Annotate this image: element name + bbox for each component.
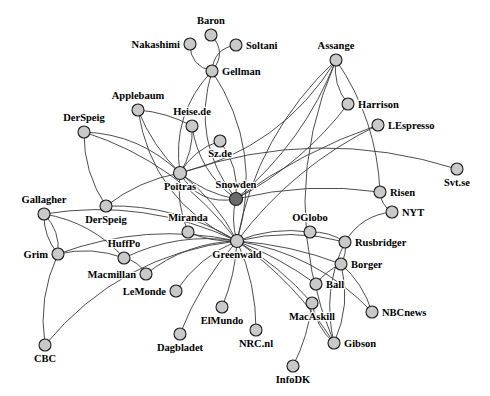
graph-node-label: CBC: [34, 353, 56, 364]
graph-node-label: Grim: [24, 249, 49, 260]
graph-node-borger[interactable]: [335, 258, 347, 270]
graph-edge: [237, 231, 310, 241]
graph-node-gallagher[interactable]: [38, 208, 50, 220]
graph-edge: [236, 188, 380, 199]
graph-node-label: MacAskill: [289, 311, 335, 322]
graph-node-macaskill[interactable]: [306, 297, 318, 309]
graph-edge: [237, 241, 316, 284]
graph-node-baron[interactable]: [205, 29, 217, 41]
graph-node-label: Applebaum: [112, 90, 165, 101]
graph-edge: [58, 251, 124, 258]
graph-node-label: Harrison: [358, 99, 399, 110]
graph-node-oglobo[interactable]: [304, 226, 316, 238]
graph-node-assange[interactable]: [330, 54, 342, 66]
graph-node-cbc[interactable]: [39, 339, 51, 351]
graph-node-lemonde[interactable]: [170, 285, 182, 297]
graph-node-label: Macmillan: [88, 269, 137, 280]
graph-edge: [330, 242, 345, 343]
graph-node-heise-de[interactable]: [186, 120, 198, 132]
graph-node-greenwald[interactable]: [231, 235, 244, 248]
graph-node-label: InfoDK: [276, 374, 311, 385]
graph-node-nrc-nl[interactable]: [250, 324, 262, 336]
graph-node-label: Soltani: [246, 40, 278, 51]
graph-node-harrison[interactable]: [342, 98, 354, 110]
graph-edge: [335, 60, 348, 104]
graph-node-label: Poitras: [164, 181, 196, 192]
graph-node-label: NBCnews: [382, 307, 426, 318]
graph-canvas: BaronNakashimiSoltaniGellmanAssangeHarri…: [0, 0, 490, 396]
graph-edge: [180, 126, 192, 173]
graph-node-label: HuffPo: [108, 238, 141, 249]
graph-node-label: DerSpeig: [85, 214, 127, 225]
graph-node-dagblade[interactable]: [174, 328, 186, 340]
graph-node-label: Borger: [351, 259, 383, 270]
graph-node-label: Baron: [197, 15, 225, 26]
graph-node-label: Assange: [318, 40, 355, 51]
graph-node-label: Gellman: [222, 66, 261, 77]
graph-edge: [237, 125, 378, 241]
graph-node-derspeig2[interactable]: [100, 200, 112, 212]
graph-node-poitras[interactable]: [174, 167, 187, 180]
graph-node-label: Greenwald: [212, 249, 262, 260]
graph-node-label: LeMonde: [123, 286, 167, 297]
graph-node-label: Svt.se: [444, 177, 470, 188]
graph-edge: [84, 132, 106, 206]
graph-node-derspeig1[interactable]: [78, 126, 90, 138]
graph-node-label: Risen: [390, 187, 415, 198]
graph-node-svt-se[interactable]: [451, 163, 463, 175]
graph-node-label: LEspresso: [388, 120, 435, 131]
graph-node-label: Ball: [326, 279, 344, 290]
graph-node-label: DerSpeig: [63, 112, 105, 123]
graph-node-sz-de[interactable]: [214, 135, 226, 147]
graph-edge: [138, 110, 180, 173]
graph-node-snowden[interactable]: [230, 193, 243, 206]
graph-node-applebaum[interactable]: [132, 104, 144, 116]
graph-node-label: ElMundo: [201, 315, 244, 326]
graph-node-label: Gallagher: [22, 194, 67, 205]
graph-node-label: Miranda: [168, 212, 208, 223]
graph-edge: [43, 254, 58, 345]
graph-node-gibson[interactable]: [328, 337, 340, 349]
nodes-layer: [38, 29, 463, 372]
network-graph-figure: BaronNakashimiSoltaniGellmanAssangeHarri…: [0, 0, 490, 396]
graph-node-label: Heise.de: [173, 106, 211, 117]
graph-node-label: Sz.de: [208, 148, 232, 159]
graph-node-label: NYT: [402, 207, 424, 218]
graph-node-ball[interactable]: [310, 278, 322, 290]
graph-node-label: Dagbladet: [157, 342, 204, 353]
graph-node-nbcnews[interactable]: [366, 306, 378, 318]
graph-node-soltani[interactable]: [230, 39, 242, 51]
graph-node-nyt[interactable]: [386, 206, 398, 218]
graph-node-rusbridger[interactable]: [339, 236, 351, 248]
graph-node-label: Snowden: [216, 179, 257, 190]
graph-node-label: OGlobo: [292, 212, 328, 223]
graph-node-grim[interactable]: [52, 248, 64, 260]
graph-node-miranda[interactable]: [182, 226, 194, 238]
graph-node-label: Nakashimi: [132, 39, 181, 50]
graph-node-risen[interactable]: [374, 186, 386, 198]
graph-node-label: Gibson: [344, 338, 376, 349]
graph-edge: [84, 132, 180, 173]
graph-node-nakashimi[interactable]: [184, 38, 196, 50]
labels-layer: BaronNakashimiSoltaniGellmanAssangeHarri…: [22, 15, 471, 385]
graph-node-huffpo[interactable]: [118, 252, 130, 264]
graph-node-elmundo[interactable]: [216, 301, 228, 313]
graph-node-label: NRC.nl: [239, 338, 273, 349]
graph-node-gellman[interactable]: [206, 65, 218, 77]
graph-node-infodk[interactable]: [287, 360, 299, 372]
graph-edge: [334, 264, 345, 343]
graph-node-macmillan[interactable]: [140, 268, 152, 280]
graph-node-label: Rusbridger: [355, 237, 407, 248]
graph-node-lespresso[interactable]: [372, 119, 384, 131]
